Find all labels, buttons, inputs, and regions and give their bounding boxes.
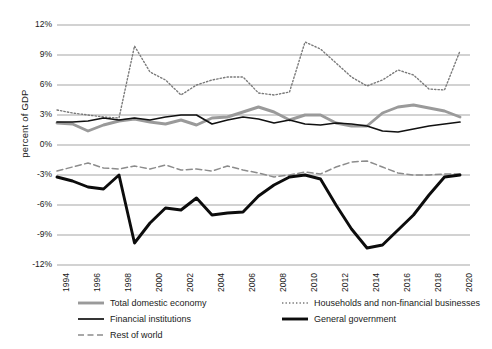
chart-container: percent of GDP 12%9%6%3%0%-3%-6%-9%-12% …	[0, 0, 492, 349]
series-line	[57, 175, 460, 248]
legend-item[interactable]: Financial institutions	[78, 314, 191, 324]
legend-swatch-icon	[282, 298, 308, 308]
legend-item[interactable]: General government	[282, 314, 396, 324]
legend-swatch-icon	[78, 298, 104, 308]
chart-legend: Total domestic economyHouseholds and non…	[0, 296, 492, 349]
legend-swatch-icon	[78, 330, 104, 340]
legend-item[interactable]: Rest of world	[78, 330, 163, 340]
legend-swatch-icon	[282, 314, 308, 324]
legend-label: Households and non-financial businesses	[314, 298, 480, 308]
legend-label: Total domestic economy	[110, 298, 207, 308]
legend-label: General government	[314, 314, 396, 324]
legend-item[interactable]: Households and non-financial businesses	[282, 298, 480, 308]
legend-label: Rest of world	[110, 330, 163, 340]
legend-label: Financial institutions	[110, 314, 191, 324]
legend-item[interactable]: Total domestic economy	[78, 298, 207, 308]
legend-swatch-icon	[78, 314, 104, 324]
